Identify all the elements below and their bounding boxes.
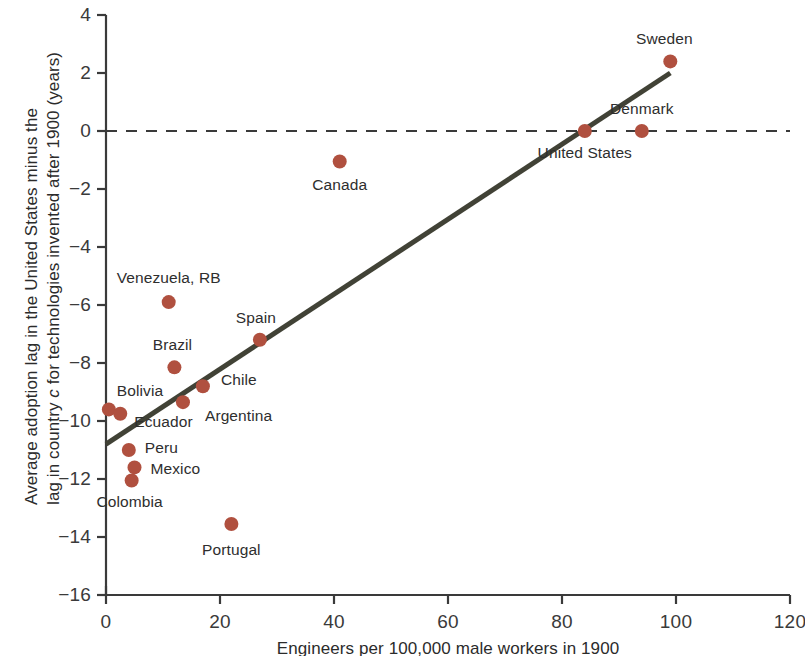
y-axis-tick-label: −2 bbox=[69, 178, 91, 200]
data-point-label: Denmark bbox=[610, 100, 674, 118]
x-axis-tick-label: 120 bbox=[774, 611, 805, 633]
data-point-label: Brazil bbox=[153, 336, 192, 354]
data-point-label: Ecuador bbox=[134, 413, 192, 431]
plot-canvas bbox=[0, 0, 805, 656]
data-point-label: Bolivia bbox=[117, 382, 163, 400]
x-axis-tick-label: 0 bbox=[101, 611, 112, 633]
y-axis-title-prefix: lag in country bbox=[44, 398, 63, 505]
data-point-marker bbox=[333, 154, 347, 168]
data-point-label: Sweden bbox=[636, 30, 693, 48]
axes-group bbox=[97, 15, 790, 604]
x-axis-tick-label: 40 bbox=[323, 611, 345, 633]
data-point-label: Spain bbox=[236, 309, 276, 327]
y-axis-tick-label: 2 bbox=[80, 62, 91, 84]
data-point-marker bbox=[578, 124, 592, 138]
data-point-marker bbox=[663, 54, 677, 68]
data-point-marker bbox=[167, 360, 181, 374]
data-point-label: Venezuela, RB bbox=[117, 269, 221, 287]
data-point-marker bbox=[196, 379, 210, 393]
data-point-label: United States bbox=[538, 144, 632, 162]
data-point-marker bbox=[162, 295, 176, 309]
y-axis-tick-label: 0 bbox=[80, 120, 91, 142]
data-point-marker bbox=[122, 443, 136, 457]
data-point-label: Peru bbox=[145, 439, 178, 457]
x-axis-title: Engineers per 100,000 male workers in 19… bbox=[277, 639, 620, 656]
x-axis-tick-label: 60 bbox=[437, 611, 459, 633]
y-axis-tick-label: −16 bbox=[58, 584, 91, 606]
data-point-label: Chile bbox=[221, 371, 257, 389]
y-axis-tick-label: −6 bbox=[69, 294, 91, 316]
data-point-marker bbox=[113, 407, 127, 421]
y-axis-title-line-1: Average adoption lag in the United State… bbox=[22, 108, 42, 505]
data-point-marker bbox=[128, 460, 142, 474]
x-axis-tick-label: 80 bbox=[551, 611, 573, 633]
data-point-label: Mexico bbox=[151, 460, 201, 478]
x-axis-tick-label: 20 bbox=[209, 611, 231, 633]
data-point-label: Argentina bbox=[205, 407, 272, 425]
y-axis-title-suffix: for technologies invented after 1900 (ye… bbox=[44, 52, 63, 389]
data-point-marker bbox=[253, 333, 267, 347]
data-point-marker bbox=[176, 395, 190, 409]
data-point-label: Colombia bbox=[97, 493, 163, 511]
data-point-label: Portugal bbox=[202, 541, 261, 559]
y-axis-tick-label: −8 bbox=[69, 352, 91, 374]
y-axis-title-line-2: lag in country c for technologies invent… bbox=[44, 52, 64, 505]
scatter-plot-figure: 420−2−4−6−8−10−12−14−16 020406080100120 … bbox=[0, 0, 805, 656]
x-axis-tick-label: 100 bbox=[660, 611, 692, 633]
y-axis-tick-label: 4 bbox=[80, 4, 91, 26]
y-axis-tick-label: −4 bbox=[69, 236, 91, 258]
y-axis-title-variable-c: c bbox=[44, 389, 63, 398]
data-point-marker bbox=[125, 473, 139, 487]
y-axis-tick-label: −14 bbox=[58, 526, 91, 548]
data-point-marker bbox=[635, 124, 649, 138]
data-point-marker bbox=[224, 517, 238, 531]
data-point-label: Canada bbox=[312, 176, 367, 194]
